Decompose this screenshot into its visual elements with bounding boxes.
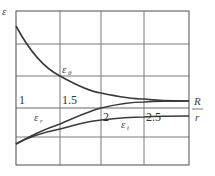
svg-text:ε: ε bbox=[121, 118, 126, 130]
x-tick-1: 1 bbox=[19, 93, 25, 107]
y-axis-label: ε bbox=[2, 5, 7, 17]
x-tick-1-5: 1.5 bbox=[62, 93, 77, 107]
chart: ε 1 1.5 2 2.5 R r ε θ ε r ε t bbox=[0, 0, 215, 176]
curve-epsilon-theta bbox=[16, 26, 189, 101]
x-tick-2: 2 bbox=[103, 110, 109, 124]
svg-text:R: R bbox=[193, 95, 201, 107]
svg-text:θ: θ bbox=[68, 69, 72, 77]
label-epsilon-theta: ε θ bbox=[62, 63, 72, 77]
label-epsilon-r: ε r bbox=[34, 111, 43, 125]
x-axis-label: R r bbox=[192, 95, 203, 123]
svg-text:ε: ε bbox=[34, 111, 39, 123]
grid-lines bbox=[16, 11, 189, 165]
svg-text:t: t bbox=[127, 124, 130, 132]
svg-text:r: r bbox=[195, 111, 200, 123]
svg-text:r: r bbox=[40, 117, 43, 125]
x-tick-2-5: 2.5 bbox=[146, 110, 161, 124]
label-epsilon-t: ε t bbox=[121, 118, 130, 132]
svg-text:ε: ε bbox=[62, 63, 67, 75]
plot-frame bbox=[16, 11, 189, 165]
